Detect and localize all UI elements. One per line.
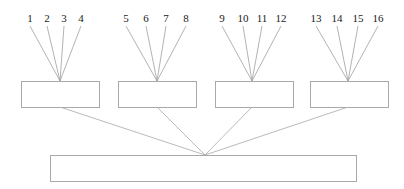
- root-box[interactable]: [51, 156, 357, 182]
- mid-box-4[interactable]: [311, 82, 389, 108]
- leaf-edge: [47, 26, 60, 81]
- diagram-svg: [0, 0, 404, 189]
- leaf-edge: [30, 26, 60, 81]
- leaf-label-16: 16: [373, 13, 384, 24]
- leaf-label-1: 1: [27, 13, 33, 24]
- root-edge: [60, 107, 205, 155]
- mid-box-2[interactable]: [119, 82, 197, 108]
- root-edge: [157, 107, 205, 155]
- leaf-label-11: 11: [257, 13, 268, 24]
- mid-boxes-group: [22, 82, 389, 108]
- leaf-label-4: 4: [78, 13, 84, 24]
- leaf-label-12: 12: [276, 13, 287, 24]
- leaf-edge: [337, 26, 348, 81]
- leaf-edge: [126, 26, 157, 81]
- leaf-label-6: 6: [143, 13, 149, 24]
- leaf-label-13: 13: [311, 13, 322, 24]
- mid-box-1[interactable]: [22, 82, 100, 108]
- mid-box-3[interactable]: [216, 82, 294, 108]
- root-edge: [205, 107, 252, 155]
- leaf-label-9: 9: [219, 13, 225, 24]
- leaf-label-7: 7: [163, 13, 169, 24]
- leaf-edge: [146, 26, 157, 81]
- diagram-canvas: 12345678910111213141516: [0, 0, 404, 189]
- leaf-label-15: 15: [353, 13, 364, 24]
- leaf-label-14: 14: [332, 13, 343, 24]
- leaf-edge: [252, 26, 262, 81]
- root-edges-group: [60, 107, 348, 155]
- leaf-label-5: 5: [123, 13, 129, 24]
- leaf-edge: [348, 26, 358, 81]
- leaf-edge: [348, 26, 378, 81]
- leaf-label-2: 2: [44, 13, 50, 24]
- leaf-label-8: 8: [183, 13, 189, 24]
- root-edge: [205, 107, 348, 155]
- leaf-label-10: 10: [238, 13, 249, 24]
- root-box-group: [51, 156, 357, 182]
- leaf-edge: [252, 26, 281, 81]
- leaf-edges-group: [30, 26, 378, 81]
- leaf-label-3: 3: [61, 13, 67, 24]
- leaf-edge: [316, 26, 348, 81]
